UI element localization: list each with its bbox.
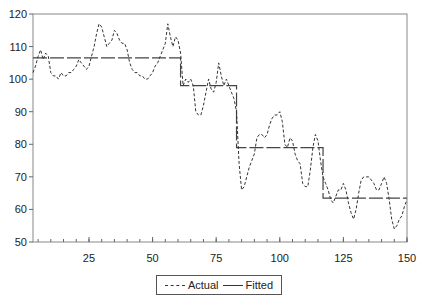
y-tick-label: 60 — [15, 203, 27, 215]
x-tick-label: 50 — [146, 252, 158, 264]
y-tick-label: 70 — [15, 171, 27, 183]
x-tick-label: 75 — [210, 252, 222, 264]
legend: Actual Fitted — [156, 275, 282, 295]
x-tick-label: 100 — [271, 252, 289, 264]
x-tick-label: 150 — [398, 252, 416, 264]
x-tick-label: 25 — [83, 252, 95, 264]
y-tick-label: 80 — [15, 138, 27, 150]
y-tick-label: 100 — [9, 73, 27, 85]
x-tick-label: 125 — [334, 252, 352, 264]
y-tick-label: 110 — [9, 41, 27, 53]
y-tick-label: 120 — [9, 8, 27, 20]
plot-frame — [33, 14, 407, 242]
line-chart: 5060708090100110120255075100125150 — [0, 0, 421, 302]
y-tick-label: 90 — [15, 106, 27, 118]
long-dash-line-swatch-icon — [223, 285, 243, 286]
legend-item-fitted: Fitted — [223, 279, 274, 291]
actual-line — [33, 24, 407, 229]
dashed-line-swatch-icon — [165, 285, 185, 286]
legend-label-actual: Actual — [188, 279, 219, 291]
plot-area: 5060708090100110120255075100125150 — [9, 8, 417, 264]
legend-label-fitted: Fitted — [246, 279, 274, 291]
fitted-line — [33, 58, 407, 198]
y-tick-label: 50 — [15, 236, 27, 248]
legend-item-actual: Actual — [165, 279, 219, 291]
